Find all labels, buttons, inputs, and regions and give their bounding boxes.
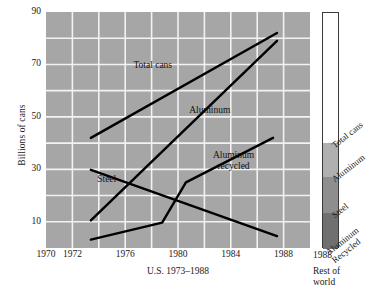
- x-axis-tick-label: 1976: [116, 250, 135, 260]
- y-axis-tick-label: 30: [32, 165, 42, 175]
- series-line-steel: [91, 170, 277, 236]
- legend-label-layer: Total cansAluminumSteelAluminumRecycled: [336, 12, 392, 248]
- legend-caption: Rest of world: [313, 266, 373, 288]
- x-axis-tick-label: 1984: [221, 250, 240, 260]
- x-axis-tick-label: 1980: [169, 250, 188, 260]
- legend-label-total-cans: Total cans: [330, 120, 365, 150]
- legend-label-line: Total cans: [330, 120, 365, 150]
- series-label-line: recycled: [213, 161, 254, 172]
- y-axis-tick-label: 50: [32, 112, 42, 122]
- x-axis-tick-labels: 197019721976198019841988: [46, 250, 310, 264]
- x-axis-title: U.S. 1973–1988: [46, 266, 310, 276]
- legend-caption-line-1: Rest of: [313, 266, 373, 277]
- y-axis-tick-label: 10: [32, 217, 42, 227]
- series-label-line: Total cans: [133, 60, 172, 71]
- series-label-total-cans: Total cans: [133, 60, 172, 71]
- series-label-steel: Steel: [97, 174, 116, 185]
- series-label-line: Aluminum: [189, 105, 230, 116]
- y-axis-tick-labels: 1030507090: [0, 0, 44, 248]
- y-axis-tick-label: 90: [32, 7, 42, 17]
- legend-label-aluminum: Aluminum: [330, 153, 367, 185]
- x-axis-tick-label: 1988: [274, 250, 293, 260]
- series-label-aluminum: Aluminum: [189, 105, 230, 116]
- series-label-line: Aluminum: [213, 150, 254, 161]
- series-line-total-cans: [91, 33, 277, 138]
- plot-svg: [46, 12, 310, 248]
- series-line-aluminum: [91, 41, 277, 221]
- legend-caption-line-2: world: [313, 277, 373, 288]
- x-axis-tick-label: 1970: [37, 250, 56, 260]
- x-axis-tick-label: 1972: [63, 250, 82, 260]
- series-label-line: Steel: [97, 174, 116, 185]
- y-axis-tick-label: 70: [32, 60, 42, 70]
- plot-area: [46, 12, 310, 248]
- legend-axis-label: 1988: [313, 250, 353, 260]
- legend-label-line: Aluminum: [330, 153, 367, 185]
- series-label-aluminum-recycled: Aluminumrecycled: [213, 150, 254, 172]
- figure-container: Billions of cans 1030507090 Total cansAl…: [0, 0, 392, 308]
